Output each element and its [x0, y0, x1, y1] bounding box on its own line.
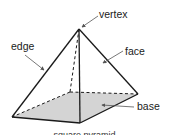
edge-label: edge [11, 41, 34, 52]
base-label: base [137, 101, 160, 112]
pyramid-figure [0, 0, 169, 135]
face-label: face [125, 46, 145, 57]
pyramid-diagram: vertex edge face base square pyramid [0, 0, 169, 135]
vertex-label: vertex [99, 9, 128, 20]
diagram-caption: square pyramid [0, 131, 169, 135]
vertex-leader [82, 16, 98, 27]
edge-leader [25, 55, 44, 70]
face-leader [103, 51, 123, 63]
